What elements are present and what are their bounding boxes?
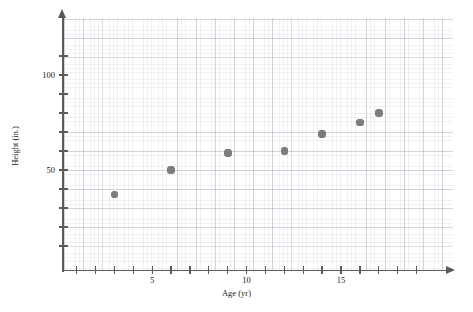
y-tick-label-50: 50	[29, 165, 55, 175]
x-axis-arrow-icon	[446, 266, 455, 274]
data-point	[356, 119, 364, 127]
x-tick-19	[416, 266, 417, 274]
y-tick-90	[59, 93, 68, 94]
x-tick-8	[208, 266, 209, 274]
x-tick-14	[321, 266, 322, 274]
y-axis-title: Height (in.)	[10, 101, 20, 191]
x-tick-15	[340, 266, 341, 274]
y-tick-label-100: 100	[29, 70, 55, 80]
data-point	[167, 166, 175, 174]
y-tick-100	[59, 74, 68, 75]
x-tick-11	[265, 266, 266, 274]
y-tick-30	[59, 207, 68, 208]
x-tick-9	[227, 266, 228, 274]
x-tick-12	[284, 266, 285, 274]
scatter-plot-figure: 51015 50100 Age (yr) Height (in.)	[0, 0, 473, 312]
x-tick-3	[114, 266, 115, 274]
x-tick-label-15: 15	[326, 275, 356, 285]
y-tick-110	[59, 55, 68, 56]
y-axis-arrow-icon	[58, 9, 66, 18]
y-tick-20	[59, 226, 68, 227]
x-axis-line	[62, 270, 447, 272]
x-tick-7	[189, 266, 190, 274]
x-tick-10	[246, 266, 247, 274]
y-tick-50	[59, 169, 68, 170]
x-tick-18	[397, 266, 398, 274]
grid-background	[63, 18, 453, 270]
x-tick-6	[170, 266, 171, 274]
y-tick-40	[59, 188, 68, 189]
x-tick-4	[133, 266, 134, 274]
x-tick-5	[152, 266, 153, 274]
data-point	[224, 149, 232, 157]
x-tick-label-5: 5	[137, 275, 167, 285]
x-tick-17	[378, 266, 379, 274]
y-tick-70	[59, 131, 68, 132]
x-tick-2	[95, 266, 96, 274]
x-tick-13	[303, 266, 304, 274]
data-point	[375, 109, 383, 117]
y-tick-10	[59, 245, 68, 246]
y-tick-80	[59, 112, 68, 113]
x-axis-title: Age (yr)	[0, 288, 473, 298]
x-tick-label-10: 10	[232, 275, 262, 285]
x-tick-16	[359, 266, 360, 274]
y-tick-60	[59, 150, 68, 151]
data-point	[318, 130, 326, 138]
data-point	[281, 147, 289, 155]
x-tick-1	[76, 266, 77, 274]
